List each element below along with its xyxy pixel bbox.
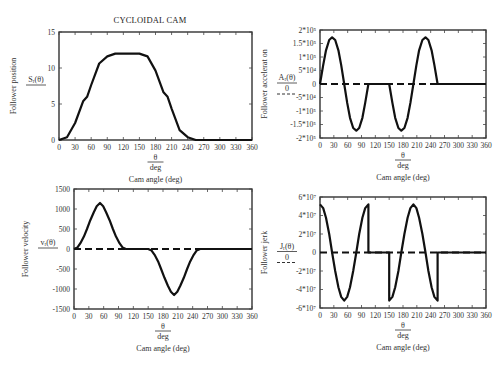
x-tick-label: 360 (246, 312, 258, 321)
x-tick-label: 120 (118, 143, 130, 152)
chart-position: 0306090120150180210240270300330360051015… (9, 28, 258, 185)
x-tick-label: 330 (467, 311, 479, 320)
x-tick-label: 300 (453, 311, 465, 320)
x-tick-label: 120 (128, 312, 140, 321)
y-tick-label: -5*10⁴ (296, 93, 316, 102)
x-tick-label: 30 (330, 141, 338, 150)
chart-acceleration: 03060901201501802102402703003303602*10⁵1… (260, 26, 492, 183)
x-tick-label: 270 (439, 311, 451, 320)
y-tick-label: -1500 (53, 305, 71, 314)
y-tick-label: -1.5*10⁵ (290, 120, 316, 129)
x-tick-label: 240 (182, 143, 194, 152)
y-tick-label: -1000 (53, 285, 71, 294)
x-tick-label: 30 (85, 312, 93, 321)
y-tick-label: 1*10⁵ (298, 53, 316, 62)
y-tick-label: 1500 (55, 185, 70, 194)
y-tick-label: -500 (56, 265, 70, 274)
y-tick-label: -6*10⁷ (296, 304, 316, 313)
y-tick-label: -1*10⁵ (296, 107, 316, 116)
x-fraction-denominator: deg (397, 161, 409, 170)
x-tick-label: 270 (198, 143, 210, 152)
y-tick-label: 4*10⁷ (298, 211, 316, 220)
y-axis-label: Follower position (9, 58, 18, 115)
x-tick-label: 180 (397, 311, 409, 320)
plot-frame (59, 32, 252, 140)
x-tick-label: 300 (217, 312, 229, 321)
y-tick-label: 1000 (55, 205, 70, 214)
x-tick-label: 30 (330, 311, 338, 320)
x-tick-label: 240 (425, 311, 437, 320)
y-tick-label: 2*10⁷ (298, 230, 316, 239)
y-tick-label: 0 (312, 248, 316, 257)
chart-jerk: 03060901201501802102402703003303606*10⁷4… (260, 193, 492, 353)
x-fraction-denominator: deg (150, 163, 162, 172)
y-fraction-numerator: Jᵣ(θ) (280, 242, 294, 251)
x-tick-label: 330 (232, 312, 244, 321)
x-tick-label: 30 (71, 143, 79, 152)
x-tick-label: 240 (425, 141, 437, 150)
y-tick-label: 15 (48, 28, 56, 37)
y-axis-label: Follower velocity (21, 221, 30, 278)
x-tick-label: 90 (358, 311, 366, 320)
y-tick-label: 500 (59, 225, 71, 234)
x-tick-label: 300 (453, 141, 465, 150)
x-tick-label: 180 (397, 141, 409, 150)
x-tick-label: 300 (214, 143, 226, 152)
y-tick-label: 10 (48, 64, 56, 73)
x-tick-label: 0 (72, 312, 76, 321)
x-tick-label: 210 (172, 312, 184, 321)
x-tick-label: 60 (100, 312, 108, 321)
y-tick-label: -2*10⁷ (296, 267, 316, 276)
y-fraction-numerator: Aᵣ(θ) (279, 73, 296, 82)
x-tick-label: 270 (439, 141, 451, 150)
y-tick-label: 0 (51, 136, 55, 145)
x-fraction-numerator: θ (154, 153, 158, 162)
x-tick-label: 90 (104, 143, 112, 152)
x-tick-label: 360 (480, 311, 492, 320)
y-tick-label: 1.5*10⁵ (293, 39, 317, 48)
x-fraction-denominator: deg (157, 332, 169, 341)
y-tick-label: 0 (312, 80, 316, 89)
y-tick-label: 2*10⁵ (298, 26, 316, 35)
position-curve (59, 54, 252, 140)
x-axis-label: Cam angle (deg) (129, 175, 183, 184)
y-tick-label: -2*10⁵ (296, 134, 316, 143)
x-fraction-denominator: deg (397, 331, 409, 340)
x-axis-label: Cam angle (deg) (136, 344, 190, 353)
x-tick-label: 120 (370, 311, 382, 320)
x-tick-label: 150 (134, 143, 146, 152)
x-tick-label: 120 (370, 141, 382, 150)
x-tick-label: 60 (344, 141, 352, 150)
x-fraction-numerator: θ (401, 321, 405, 330)
x-tick-label: 0 (57, 143, 61, 152)
x-tick-label: 210 (166, 143, 178, 152)
x-tick-label: 150 (143, 312, 155, 321)
y-fraction-denominator: 0 (285, 253, 289, 262)
x-tick-label: 180 (150, 143, 162, 152)
x-tick-label: 360 (246, 143, 258, 152)
cycloidal-cam-figure: CYCLOIDAL CAM 03060901201501802102402703… (0, 0, 501, 366)
x-tick-label: 210 (411, 311, 423, 320)
y-fraction-numerator: vᵣ(θ) (41, 238, 56, 247)
x-tick-label: 90 (358, 141, 366, 150)
y-tick-label: 0 (66, 245, 70, 254)
y-fraction-numerator: Sᵣ(θ) (28, 75, 44, 84)
x-tick-label: 150 (384, 141, 396, 150)
x-tick-label: 0 (318, 141, 322, 150)
x-tick-label: 60 (87, 143, 95, 152)
y-fraction-denominator: 0 (285, 84, 289, 93)
x-tick-label: 60 (344, 311, 352, 320)
x-tick-label: 210 (411, 141, 423, 150)
x-tick-label: 330 (230, 143, 242, 152)
x-tick-label: 0 (318, 311, 322, 320)
y-axis-label: Follower jerk (260, 231, 269, 274)
y-axis-label: Follower accelerat on (260, 49, 269, 118)
x-tick-label: 150 (384, 311, 396, 320)
y-tick-label: 6*10⁷ (298, 193, 316, 202)
x-tick-label: 180 (157, 312, 169, 321)
x-tick-label: 240 (187, 312, 199, 321)
x-tick-label: 270 (202, 312, 214, 321)
x-tick-label: 360 (480, 141, 492, 150)
x-axis-label: Cam angle (deg) (376, 173, 430, 182)
y-tick-label: 5*10⁴ (298, 66, 316, 75)
